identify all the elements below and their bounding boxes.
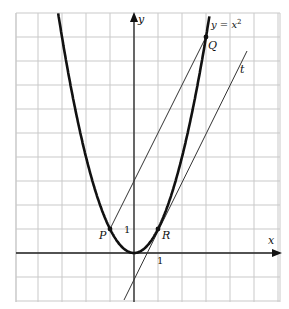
tangent-label-t: t (240, 63, 245, 76)
y-tick-label-1: 1 (124, 224, 130, 235)
x-tick-label-1: 1 (157, 255, 163, 266)
point-q-label: Q (208, 39, 217, 52)
x-axis-label: x (268, 234, 275, 247)
tangent-line-t (124, 51, 247, 300)
point-r-label: R (161, 229, 170, 242)
y-axis-label: y (137, 13, 145, 26)
parabola-diagram: y x 1 1 P R Q t y = x2 (0, 0, 289, 309)
grid (16, 13, 280, 302)
point-p (108, 227, 113, 232)
point-p-label: P (98, 229, 107, 242)
point-r (156, 227, 161, 232)
curve-equation-label: y = x2 (210, 18, 242, 30)
